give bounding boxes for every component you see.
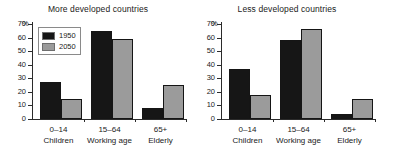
plot-area <box>221 24 375 119</box>
panel-less-developed-countries: Less developed countries % 70 60 50 40 3… <box>189 0 385 154</box>
x-group-label-children: 0–14 Children <box>220 124 275 146</box>
bar-2050-children <box>61 99 82 119</box>
bar-1950-working-age <box>91 31 112 119</box>
bar-1950-working-age <box>280 40 301 119</box>
bar-2050-working-age <box>112 39 133 119</box>
legend: 1950 2050 <box>38 27 81 55</box>
panel-title: Less developed countries <box>189 4 385 14</box>
x-group-label-elderly: 65+ Elderly <box>322 124 377 146</box>
legend-item-2050: 2050 <box>42 41 76 52</box>
legend-item-1950: 1950 <box>42 30 76 41</box>
bar-1950-elderly <box>331 114 352 119</box>
panel-more-developed-countries: More developed countries % 70 60 50 40 3… <box>0 0 196 154</box>
x-group-label-working-age: 15–64 Working age <box>82 124 137 146</box>
legend-label-2050: 2050 <box>59 42 76 51</box>
x-group-label-elderly: 65+ Elderly <box>133 124 188 146</box>
x-group-label-working-age: 15–64 Working age <box>271 124 326 146</box>
x-tick-separator-2 <box>324 119 325 122</box>
bar-2050-working-age <box>301 29 322 119</box>
figure-two-panel-bar-charts: More developed countries % 70 60 50 40 3… <box>0 0 393 154</box>
x-tick-separator-3 <box>375 119 376 122</box>
x-group-label-children: 0–14 Children <box>31 124 86 146</box>
bar-1950-children <box>229 69 250 119</box>
x-tick-separator-1 <box>273 119 274 122</box>
x-tick-separator-1 <box>84 119 85 122</box>
x-tick-separator-3 <box>186 119 187 122</box>
legend-swatch-1950 <box>42 32 55 40</box>
bar-2050-children <box>250 95 271 119</box>
bar-2050-elderly <box>163 85 184 119</box>
x-tick-separator-2 <box>135 119 136 122</box>
legend-swatch-2050 <box>42 43 55 51</box>
bar-1950-children <box>40 82 61 119</box>
x-axis-line <box>221 119 376 120</box>
bar-1950-elderly <box>142 108 163 119</box>
legend-label-1950: 1950 <box>59 31 76 40</box>
panel-title: More developed countries <box>0 4 196 14</box>
x-axis-line <box>32 119 187 120</box>
y-tick-0: 0 <box>28 119 32 120</box>
bar-2050-elderly <box>352 99 373 119</box>
y-tick-0: 0 <box>217 119 221 120</box>
